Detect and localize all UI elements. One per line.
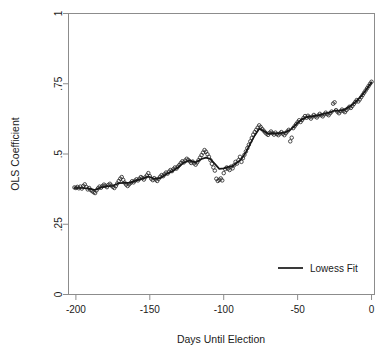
legend-label-lowess-fit: Lowess Fit — [310, 263, 358, 274]
data-point — [222, 171, 226, 175]
y-axis-ticks: 0.25.5.751 — [53, 10, 69, 297]
scatter-points-group — [73, 80, 374, 195]
x-tick-label: -150 — [140, 304, 160, 315]
y-tick-label: 1 — [53, 10, 64, 16]
y-tick-label: 0 — [53, 291, 64, 297]
y-tick-label: .5 — [53, 149, 64, 158]
data-point — [213, 169, 217, 173]
chart-figure: -200-150-100-500 0.25.5.751 Lowess Fit D… — [0, 0, 392, 364]
x-tick-label: -100 — [214, 304, 234, 315]
scatter-plot-svg: -200-150-100-500 0.25.5.751 Lowess Fit D… — [0, 0, 392, 364]
plot-frame — [69, 14, 375, 295]
y-tick-label: .25 — [53, 217, 64, 231]
x-tick-label: 0 — [369, 304, 375, 315]
data-point — [290, 136, 294, 140]
x-tick-label: -200 — [66, 304, 86, 315]
legend: Lowess Fit — [278, 263, 358, 274]
data-point — [288, 140, 292, 144]
x-tick-label: -50 — [290, 304, 305, 315]
y-axis-title: OLS Coefficient — [9, 117, 21, 190]
x-axis-title: Days Until Election — [177, 333, 265, 345]
lowess-fit-line — [74, 82, 371, 190]
x-axis-ticks: -200-150-100-500 — [66, 295, 375, 315]
y-tick-label: .75 — [53, 76, 64, 90]
